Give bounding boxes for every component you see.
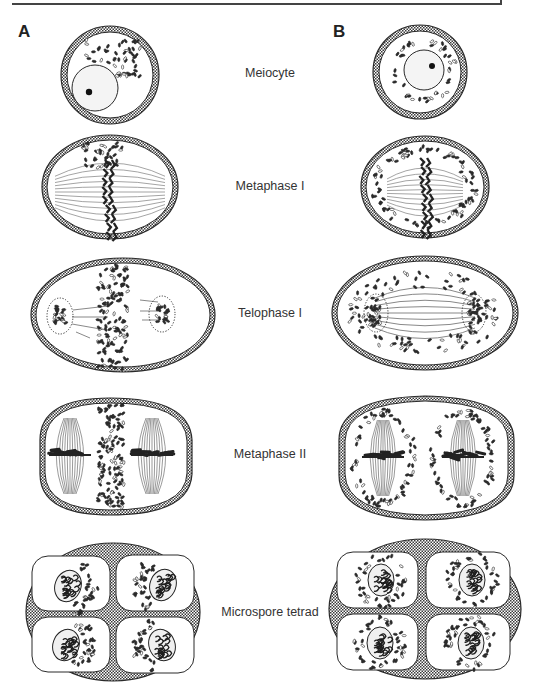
cell-b-metaphase-1 bbox=[361, 136, 489, 239]
cell-b-meiocyte bbox=[373, 25, 467, 119]
cell-a-microspore-tetrad bbox=[26, 543, 200, 681]
cell-a-metaphase-1 bbox=[42, 135, 178, 241]
meiosis-diagram bbox=[0, 0, 545, 700]
cell-a-telophase-1 bbox=[31, 258, 215, 372]
cell-a-metaphase-2 bbox=[40, 398, 192, 515]
nucleus bbox=[404, 50, 444, 90]
nucleolus bbox=[86, 89, 92, 95]
cell-b-telophase-1 bbox=[332, 256, 518, 370]
nucleus bbox=[72, 65, 118, 111]
cell-b-microspore-tetrad bbox=[329, 539, 521, 679]
cell-a-meiocyte bbox=[61, 26, 159, 124]
cell-b-metaphase-2 bbox=[339, 396, 514, 520]
nucleolus bbox=[429, 63, 435, 69]
